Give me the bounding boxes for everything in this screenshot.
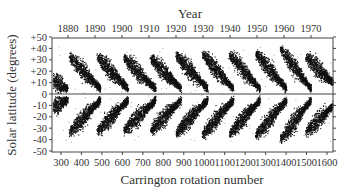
y-tick-label: +10 <box>31 77 47 88</box>
x-tick-label: 400 <box>74 157 90 168</box>
top-tick-label: 1900 <box>112 23 133 34</box>
x-tick-label: 500 <box>94 157 110 168</box>
top-tick-label: 1940 <box>220 23 241 34</box>
x-tick-label: 600 <box>115 157 131 168</box>
y-tick-label: 0 <box>42 89 47 100</box>
y-tick-label: -40 <box>33 134 47 145</box>
top-tick-label: 1930 <box>193 23 214 34</box>
top-tick-label: 1970 <box>301 23 322 34</box>
y-tick-label: +30 <box>31 54 47 65</box>
y-tick-label: -30 <box>33 123 47 134</box>
top-axis-title: Year <box>178 6 203 21</box>
x-tick-label: 1400 <box>276 157 297 168</box>
y-axis-title: Solar latitude (degrees) <box>4 34 19 155</box>
x-tick-label: 1600 <box>317 157 338 168</box>
top-tick-label: 1920 <box>166 23 187 34</box>
x-tick-label: 1200 <box>235 157 256 168</box>
x-tick-label: 300 <box>53 157 69 168</box>
top-axis-ticks: 1880189019001910192019301940195019601970 <box>58 23 322 38</box>
top-tick-label: 1910 <box>139 23 160 34</box>
top-tick-label: 1890 <box>85 23 106 34</box>
top-tick-label: 1950 <box>247 23 268 34</box>
sunspot-dots <box>53 45 334 144</box>
y-tick-label: +20 <box>31 66 47 77</box>
x-tick-label: 1100 <box>214 157 235 168</box>
x-tick-label: 800 <box>155 157 171 168</box>
top-tick-label: 1880 <box>58 23 79 34</box>
x-tick-label: 1300 <box>255 157 276 168</box>
y-tick-label: -10 <box>33 100 47 111</box>
y-tick-label: -20 <box>33 111 47 122</box>
x-axis-ticks: 3004005006007008009001000110012001300140… <box>53 152 337 168</box>
top-tick-label: 1960 <box>274 23 295 34</box>
x-tick-label: 1000 <box>194 157 215 168</box>
x-tick-label: 700 <box>135 157 151 168</box>
y-tick-label: +40 <box>31 43 47 54</box>
x-axis-title: Carrington rotation number <box>121 172 265 187</box>
x-tick-label: 1500 <box>296 157 317 168</box>
y-tick-label: -50 <box>33 146 47 157</box>
y-tick-label: +50 <box>31 32 47 43</box>
butterfly-diagram: +50+40+30+20+100-10-20-30-40-50 30040050… <box>0 0 353 190</box>
x-tick-label: 900 <box>176 157 192 168</box>
